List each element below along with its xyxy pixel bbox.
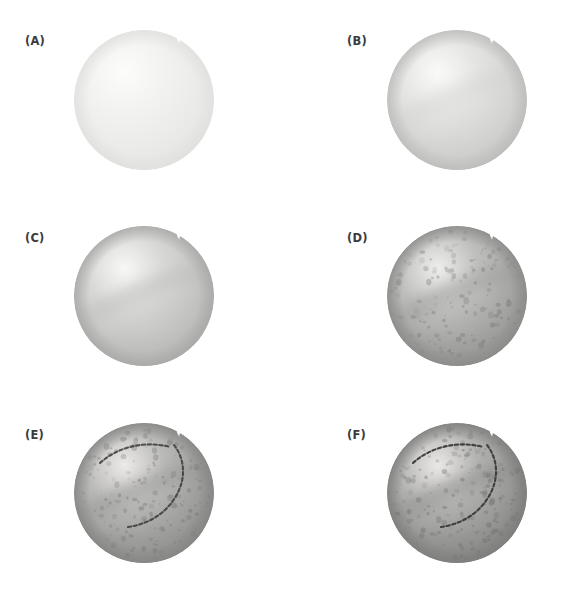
panel-label-e: (E) (25, 430, 44, 442)
panel-label-a: (A) (25, 36, 45, 48)
baseball-stage-f (383, 419, 531, 567)
baseball-stage-b (383, 26, 531, 174)
baseball-stage-c (70, 222, 218, 370)
baseball-stage-a (70, 26, 218, 174)
baseball-stage-d (383, 222, 531, 370)
panel-label-b: (B) (347, 36, 367, 48)
figure-sheet: (A)(B)(C)(D)(E)(F) (0, 0, 574, 591)
baseball-stage-e (70, 419, 218, 567)
panel-label-d: (D) (347, 233, 368, 245)
panel-label-f: (F) (347, 430, 366, 442)
panel-label-c: (C) (25, 233, 45, 245)
